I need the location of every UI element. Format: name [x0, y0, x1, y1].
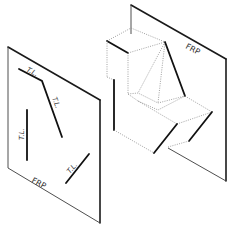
right-plane-top-edge: [131, 5, 226, 59]
lower-block-bottom-left: [114, 130, 154, 153]
left-frontal-reference-plane: T.L. T.L. T.L. T.L. FRP: [8, 47, 100, 223]
block-top-front-edge: [107, 41, 128, 53]
left-plane-bottom-edge: [8, 168, 100, 223]
lower-block-top-left: [138, 101, 177, 124]
right-frontal-reference-plane: FRP: [131, 5, 226, 181]
lower-block-top-right: [185, 96, 212, 112]
frp-label-left: FRP: [30, 176, 48, 191]
block-top-back-edges: [107, 28, 165, 42]
left-plane-top-edge: [8, 47, 100, 100]
lower-block-bottom-right: [168, 141, 189, 147]
pyramid-base: [128, 93, 185, 103]
isometric-projection-diagram: T.L. T.L. T.L. T.L. FRP FRP: [0, 0, 229, 228]
tl-label-lower: T.L.: [65, 161, 79, 175]
block-left-bottom-edge: [107, 77, 114, 80]
tl-label-vertical: T.L.: [18, 128, 26, 140]
lower-block-right-edge: [189, 112, 212, 141]
pyramid-left-edge: [138, 42, 165, 93]
tl-label-upper: T.L.: [25, 66, 39, 79]
lower-block-front-edge: [154, 124, 177, 153]
right-plane-bottom-edge: [168, 148, 226, 181]
pyramid-center-edge: [158, 42, 165, 103]
pyramid-right-edge: [165, 42, 185, 96]
block-top-right-edge: [128, 42, 165, 53]
